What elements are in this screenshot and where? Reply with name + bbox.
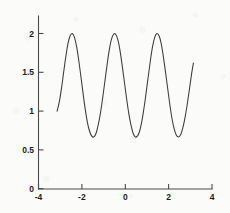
data-series-line: [57, 33, 193, 137]
x-tick-label: 2: [166, 192, 171, 202]
x-tick-label: 4: [210, 192, 215, 202]
x-axis-ticks: [39, 184, 213, 189]
y-tick-label: 1: [29, 106, 34, 116]
x-axis-tick-labels: -4 -2 0 2 4: [35, 192, 215, 202]
chart-screenshot: 2 1.5 1 0.5 0 -4 -2 0 2 4: [0, 0, 230, 213]
x-tick-label: 0: [123, 192, 128, 202]
x-tick-label: -4: [35, 192, 43, 202]
x-tick-label: -2: [78, 192, 86, 202]
y-axis-tick-labels: 2 1.5 1 0.5 0: [22, 29, 34, 194]
y-tick-label: 0.5: [22, 145, 34, 155]
y-tick-label: 1.5: [22, 67, 34, 77]
y-axis-ticks: [39, 34, 44, 189]
y-tick-label: 0: [29, 184, 34, 194]
y-tick-label: 2: [29, 29, 34, 39]
line-chart: 2 1.5 1 0.5 0 -4 -2 0 2 4: [0, 0, 230, 213]
